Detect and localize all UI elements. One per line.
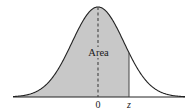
tick-label-z: z <box>126 99 131 110</box>
area-label: Area <box>88 47 109 58</box>
normal-curve-figure: Area 0 z <box>0 0 195 112</box>
tick-label-zero: 0 <box>96 99 101 110</box>
normal-curve-svg: Area 0 z <box>0 0 195 112</box>
